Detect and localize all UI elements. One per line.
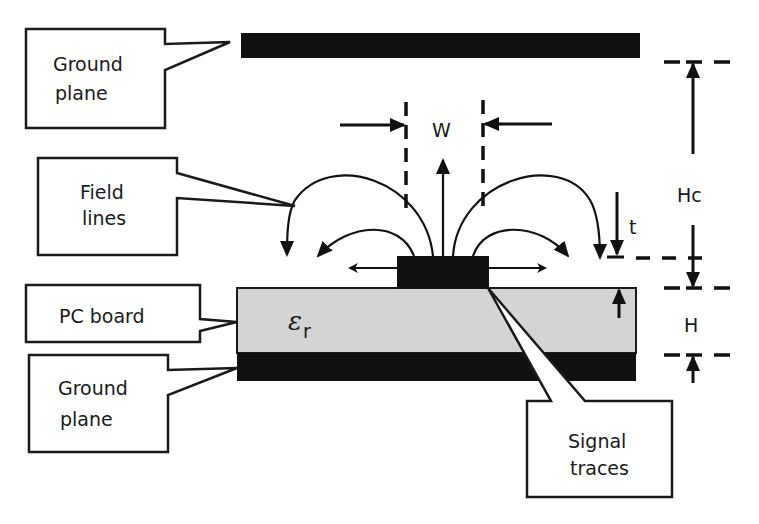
width-label: W — [432, 119, 451, 141]
svg-text:r: r — [303, 320, 311, 342]
svg-text:Ground: Ground — [53, 53, 123, 75]
svg-text:Ground: Ground — [58, 377, 128, 399]
bottom-ground-plane — [237, 353, 636, 381]
svg-text:plane: plane — [55, 82, 108, 104]
microstrip-diagram: ε r W t Hc — [0, 0, 759, 524]
svg-text:ε: ε — [288, 306, 302, 336]
svg-text:PC board: PC board — [59, 305, 145, 327]
top-ground-plane — [241, 33, 640, 58]
board-height-label: H — [684, 314, 698, 336]
callout-ground-plane-bottom: Ground plane — [29, 355, 237, 452]
svg-text:Field: Field — [80, 181, 124, 203]
cap-height-label: Hc — [677, 184, 702, 206]
thickness-label: t — [629, 216, 636, 238]
width-dimension: W — [340, 100, 552, 215]
svg-text:plane: plane — [60, 408, 113, 430]
svg-text:lines: lines — [82, 207, 126, 229]
svg-text:Signal: Signal — [568, 430, 626, 452]
callout-pc-board: PC board — [26, 285, 237, 342]
signal-trace — [397, 256, 489, 289]
svg-text:traces: traces — [570, 457, 629, 479]
field-lines — [287, 160, 600, 268]
cap-height-dimension: Hc — [664, 62, 732, 288]
callout-field-lines: Field lines — [38, 158, 295, 255]
callout-ground-plane-top: Ground plane — [26, 29, 230, 128]
